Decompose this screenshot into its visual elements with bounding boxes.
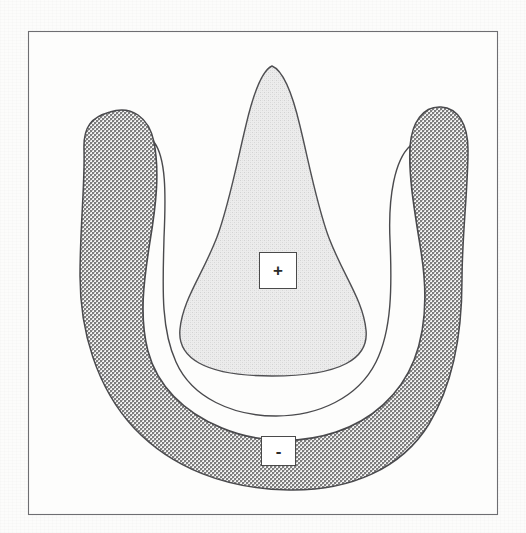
polarity-label-positive-text: + bbox=[273, 262, 283, 279]
polarity-label-positive: + bbox=[259, 252, 297, 289]
polarity-label-negative: - bbox=[261, 436, 296, 466]
figure-container: + - bbox=[0, 0, 526, 533]
polarity-label-negative-text: - bbox=[276, 443, 282, 460]
